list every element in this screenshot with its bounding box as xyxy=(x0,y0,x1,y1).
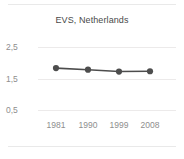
series-line-evs-netherlands xyxy=(56,68,150,71)
plot-area: 2,5 1,5 0,5 1981 1990 1999 2008 xyxy=(0,0,184,159)
chart-figure: EVS, Netherlands 2,5 1,5 0,5 1981 1990 1… xyxy=(0,0,184,159)
data-point xyxy=(116,68,122,74)
data-series-layer xyxy=(0,0,184,159)
data-point xyxy=(85,67,91,73)
data-point xyxy=(53,65,59,71)
data-point xyxy=(147,68,153,74)
